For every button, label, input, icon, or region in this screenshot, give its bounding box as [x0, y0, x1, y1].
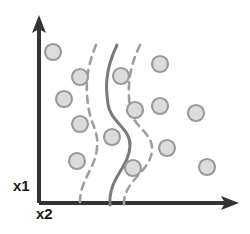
data-point: [188, 105, 204, 121]
data-point-group: [45, 44, 215, 176]
data-point: [72, 69, 88, 85]
y-axis-label: x1: [13, 178, 30, 193]
data-point: [152, 98, 168, 114]
data-point: [72, 116, 88, 132]
data-point: [127, 102, 143, 118]
x-axis-label: x2: [36, 206, 53, 221]
data-point: [56, 91, 72, 107]
data-point: [125, 160, 141, 176]
data-point: [69, 153, 85, 169]
data-point: [113, 68, 129, 84]
data-point: [152, 56, 168, 72]
data-point: [199, 159, 215, 175]
plot-canvas: [0, 0, 250, 234]
data-point: [104, 129, 120, 145]
margin-boundary-right-curve: [124, 45, 152, 205]
data-point: [159, 140, 175, 156]
data-point: [45, 44, 61, 60]
scatter-plot-figure: x1 x2: [0, 0, 250, 234]
